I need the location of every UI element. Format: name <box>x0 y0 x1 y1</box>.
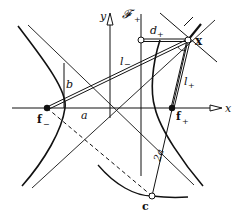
asymptote-1 <box>28 25 194 185</box>
b-label: b <box>66 78 73 91</box>
y-axis-arrow-icon <box>107 13 113 25</box>
l-minus-line-b <box>47 42 188 110</box>
l-minus-sub: − <box>124 60 131 69</box>
d-plus-sub: + <box>157 30 164 39</box>
small-tick <box>184 17 193 26</box>
l-minus-line-a <box>47 39 188 107</box>
hyperbola-diagram: y x 𝓕 + d + x l − l + b a 2a f − f + c <box>0 0 237 215</box>
f-minus-point <box>44 105 50 111</box>
l-plus-sub: + <box>188 81 195 90</box>
directrix-foot-point <box>138 37 144 43</box>
l-plus-line-b <box>174 41 190 108</box>
hyperbola-left-branch <box>18 26 65 186</box>
circle-arc <box>98 165 188 197</box>
x-point-label: x <box>195 34 203 48</box>
c-label: c <box>142 200 149 213</box>
y-axis-label: y <box>99 10 107 23</box>
f-minus-sub: − <box>43 120 50 129</box>
c-point <box>149 193 155 199</box>
directrix-sub: + <box>134 15 141 24</box>
x-axis-arrow-icon <box>210 105 222 111</box>
x-axis-label: x <box>225 102 232 115</box>
f-plus-sub: + <box>182 117 189 126</box>
two-a-label: 2a <box>151 147 166 163</box>
x-point <box>185 37 191 43</box>
a-label: a <box>81 109 88 122</box>
dashed-f-minus-to-c <box>47 108 152 196</box>
d-plus-label: d <box>150 24 157 37</box>
f-plus-point <box>169 105 175 111</box>
